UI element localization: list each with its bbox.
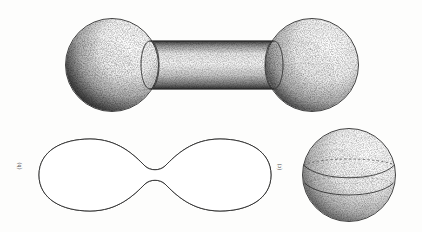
figure-label-left: (b) (16, 155, 22, 177)
left-sphere (56, 19, 159, 119)
figure-canvas (0, 0, 422, 232)
panel-bottom-left-peanut (35, 135, 275, 216)
figure-label-right: (c) (276, 156, 282, 178)
panel-top-dumbbell (56, 19, 359, 119)
panel-bottom-right-banded-sphere (294, 129, 396, 229)
figure-page: (b) (c) (0, 0, 422, 232)
cylinder-overlay (150, 41, 274, 89)
